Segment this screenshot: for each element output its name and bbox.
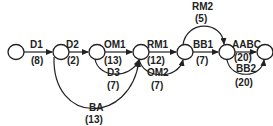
edge-duration-aabc: (20) — [234, 52, 252, 63]
node-3 — [89, 45, 105, 60]
edge-duration-ba: (13) — [85, 114, 103, 125]
node-5 — [177, 45, 193, 60]
edges — [24, 26, 264, 108]
edge-duration-rm2: (5) — [195, 13, 207, 24]
node-1 — [8, 45, 24, 60]
edge-label-rm2: RM2 — [192, 1, 214, 12]
edge-label-bb1: BB1 — [193, 39, 213, 50]
edge-duration-d2: (2) — [67, 55, 79, 66]
edge-label-d2: D2 — [66, 39, 79, 50]
edge-label-om2: OM2 — [147, 67, 169, 78]
edge-label-bb2: BB2 — [236, 63, 256, 74]
edge-duration-bb2: (20) — [235, 77, 253, 88]
edge-duration-d1: (8) — [31, 55, 43, 66]
edge-label-d3: D3 — [107, 67, 120, 78]
network-diagram: D1 (8) D2 (2) OM1 (13) D3 (7) BA (13) RM… — [0, 0, 273, 126]
edge-duration-om1: (13) — [104, 55, 122, 66]
edge-label-aabc: AABC — [232, 39, 261, 50]
edge-duration-d3: (7) — [107, 80, 119, 91]
labels: D1 (8) D2 (2) OM1 (13) D3 (7) BA (13) RM… — [30, 1, 261, 125]
edge-duration-bb1: (7) — [196, 55, 208, 66]
edge-label-rm1: RM1 — [147, 39, 169, 50]
edge-label-d1: D1 — [30, 39, 43, 50]
edge-duration-rm1: (12) — [147, 55, 165, 66]
edge-label-ba: BA — [89, 102, 103, 113]
edge-duration-om2: (7) — [151, 80, 163, 91]
edge-label-om1: OM1 — [104, 39, 126, 50]
